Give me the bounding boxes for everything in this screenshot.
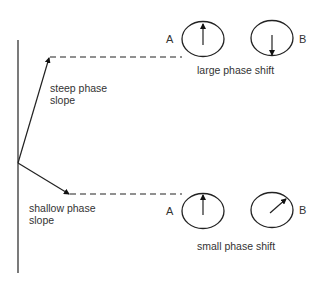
shallow-slope-label-line1: shallow phase [29, 202, 96, 214]
steep-slope-label-line2: slope [50, 94, 75, 106]
bottom-dial-b-label: B [299, 204, 306, 216]
bottom-dial-a [182, 194, 224, 229]
shallow-slope-label-line2: slope [29, 214, 54, 226]
steep-slope-label-line1: steep phase [50, 82, 107, 94]
top-caption: large phase shift [197, 64, 274, 76]
top-dial-a [182, 22, 224, 57]
bottom-dial-b [251, 193, 293, 228]
top-dial-a-label: A [166, 33, 173, 45]
top-dial-b [251, 21, 293, 56]
bottom-caption: small phase shift [197, 240, 275, 252]
shallow-slope-arrow [18, 163, 69, 194]
bottom-dial-a-label: A [166, 205, 173, 217]
steep-slope-arrow [18, 58, 49, 163]
top-dial-b-label: B [299, 33, 306, 45]
